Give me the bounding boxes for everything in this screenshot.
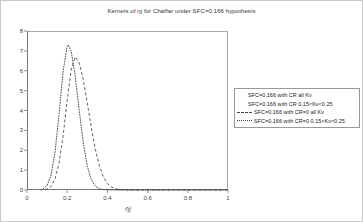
y-tick-label: 5	[9, 88, 23, 94]
legend-line-sample-dotted	[237, 120, 252, 121]
legend-row: SFC=0.166 with CR all Kv	[237, 91, 357, 100]
x-tick-label: 0.6	[138, 195, 158, 201]
figure-canvas: { "figure": { "title": "Kernels of ηj fo…	[0, 0, 363, 222]
plot-area	[27, 31, 228, 190]
legend-line-sample-dashed	[237, 112, 252, 113]
y-tick-label: 6	[9, 68, 23, 74]
legend-box: SFC=0.166 with CR all KvSFC=0.166 with C…	[234, 88, 360, 128]
x-tick-label: 0.8	[178, 195, 198, 201]
plot-frame	[28, 32, 228, 190]
legend-label: SFC=0.166 with CR=0 all Kv	[254, 109, 324, 115]
x-tick-label: 0	[17, 195, 37, 201]
legend-label: SFC=0.166 with CR 0.15<Kv<0.25	[248, 101, 333, 107]
x-tick-label: 0.2	[57, 195, 77, 201]
curve-dashed	[45, 57, 228, 190]
y-tick-label: 0	[9, 187, 23, 193]
x-tick-label: 1	[218, 195, 238, 201]
legend-row: SFC=0.166 with CR 0.15<Kv<0.25	[237, 100, 357, 109]
x-axis-label: ηj	[107, 205, 149, 213]
y-tick-label: 1	[9, 167, 23, 173]
legend-label: SFC=0.166 with CR all Kv	[248, 92, 312, 98]
legend-row: SFC=0.166 with CR=0 all Kv	[237, 108, 357, 117]
x-tick-label: 0.4	[97, 195, 117, 201]
y-tick-label: 7	[9, 48, 23, 54]
legend-label: SFC=0.166 with CR=0 0.15<Kv<0.25	[254, 118, 345, 124]
chart-title: Kernels of ηj for Chaffar under SFC=0.16…	[0, 8, 363, 14]
curve-dotted	[41, 45, 228, 190]
y-tick-label: 4	[9, 108, 23, 114]
legend-line-sample-none	[237, 103, 246, 104]
y-tick-label: 2	[9, 147, 23, 153]
y-tick-label: 3	[9, 127, 23, 133]
legend-row: SFC=0.166 with CR=0 0.15<Kv<0.25	[237, 117, 357, 126]
y-tick-label: 8	[9, 28, 23, 34]
legend-line-sample-none	[237, 95, 246, 96]
